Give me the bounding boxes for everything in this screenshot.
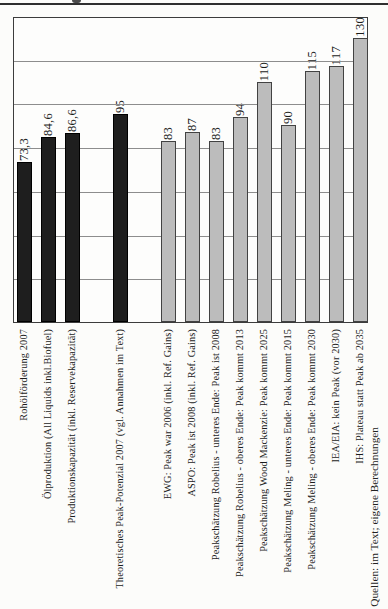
category-label-11: IEA/EIA: kein Peak (vor 2030) [331,329,341,463]
category-label-12: IHS: Plateau statt Peak ab 2035 [355,329,365,464]
scanned-book-page: 73,3Rohölförderung 200784,6Ölproduktion … [0,0,388,609]
category-label-10: Peakschätzung Meling - oberes Ende: Peak… [307,329,317,570]
bar-5 [185,132,200,322]
bar-7 [233,117,248,322]
bar-2 [65,133,80,322]
bar-value-label-9: 90 [282,111,295,124]
bar-10 [305,71,320,322]
bar-1 [41,137,56,322]
category-label-0: Rohölförderung 2007 [19,329,29,421]
bar-value-label-1: 84,6 [42,113,55,136]
bar-value-label-11: 117 [330,46,343,65]
bar-11 [329,66,344,322]
page-header-rule [0,3,388,5]
source-note: Quellen: im Text; eigene Berechnungen [369,427,380,607]
bar-6 [209,141,224,322]
bar-0 [17,162,32,322]
category-label-6: Peakschätzung Robelius - unteres Ende: P… [211,329,221,560]
bar-9 [281,125,296,322]
category-label-9: Peakschätzung Meling - unteres Ende: Pea… [283,329,293,573]
category-label-4: EWG: Peak war 2006 (inkl. Ref. Gains) [163,329,173,499]
category-label-1: Ölproduktion (All Liquids inkl.Biofuel) [43,329,53,499]
bar-value-label-2: 86,6 [66,109,79,132]
bar-value-label-4: 83 [162,127,175,140]
category-label-3: Theoretisches Peak-Potenzial 2007 (vgl. … [115,329,125,589]
category-label-2: Produktionskapazität (inkl. Reservekapaz… [67,329,77,524]
category-label-7: Peakschätzung Robelius - oberes Ende: Pe… [235,329,245,577]
bar-value-label-6: 83 [210,127,223,140]
bar-4 [161,141,176,322]
bar-3 [113,114,128,322]
gridline-120 [14,61,367,62]
bar-value-label-3: 95 [114,100,127,113]
bar-value-label-0: 73,3 [18,138,31,161]
bar-12 [353,38,368,322]
category-label-8: Peakschätzung Wood Mackenzie: Peak kommt… [259,329,269,552]
bar-value-label-8: 110 [258,62,271,81]
category-label-5: ASPO: Peak ist 2008 (inkl. Ref. Gains) [187,329,197,497]
bar-value-label-12: 130 [354,17,367,37]
bar-8 [257,82,272,322]
bar-value-label-5: 87 [186,118,199,131]
cut-off-header-text-fragment [72,0,81,3]
